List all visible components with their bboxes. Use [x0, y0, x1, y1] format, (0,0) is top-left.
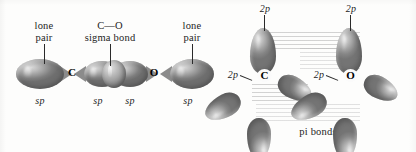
atom-label-oxygen-left: O — [148, 66, 160, 78]
p-orbital-carbon-bottom — [247, 118, 271, 152]
sp-lobe-carbon-lone-pair — [16, 59, 64, 89]
p-orbital-carbon-left — [201, 88, 245, 126]
sigma-bond-label: C—O sigma bond — [74, 20, 146, 43]
orbital-diagram-figure: lone pair C—O sigma bond lone pair C O — [0, 0, 416, 152]
hybrid-label-sp-3: sp — [120, 95, 140, 107]
atom-label-carbon-left: C — [66, 66, 78, 78]
hybrid-label-sp-1: sp — [30, 95, 50, 107]
orbital-label-2p-carbon-top-leader — [264, 15, 265, 31]
hybrid-label-sp-2: sp — [88, 95, 108, 107]
hybrid-label-sp-4: sp — [178, 95, 198, 107]
orbital-label-2p-oxygen-top: 2p — [341, 3, 361, 15]
orbital-label-2p-carbon-top: 2p — [255, 3, 275, 15]
sigma-bond-leader — [110, 44, 111, 66]
orbital-label-2p-oxygen-top-leader — [350, 15, 351, 31]
lone-pair-right-leader — [192, 44, 193, 64]
lone-pair-left-leader — [44, 44, 45, 64]
sigma-bond-overlap-sphere — [102, 60, 126, 88]
atom-label-carbon-right: C — [258, 69, 271, 81]
atom-label-oxygen-right: O — [344, 69, 357, 81]
lone-pair-right-label: lone pair — [164, 20, 220, 43]
p-orbital-oxygen-upper-right — [360, 70, 402, 106]
p-orbital-oxygen-bottom — [333, 118, 357, 152]
lone-pair-left-label: lone pair — [16, 20, 72, 43]
